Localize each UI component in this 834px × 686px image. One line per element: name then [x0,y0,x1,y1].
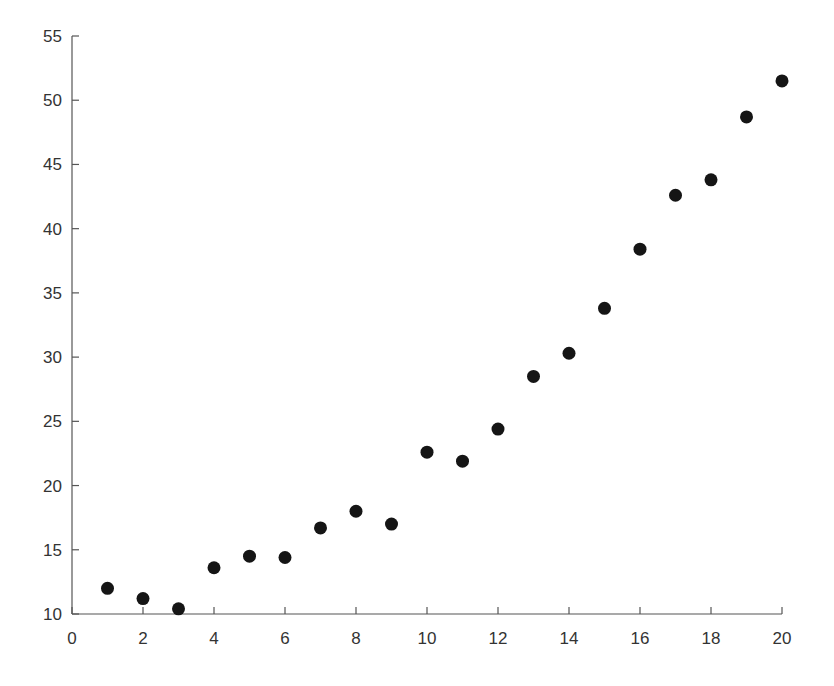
x-tick-label: 18 [702,629,721,648]
x-tick-label: 8 [351,629,360,648]
x-tick-label: 4 [209,629,218,648]
y-axis: 10152025303540455055 [43,27,79,624]
y-tick-label: 50 [43,91,62,110]
data-point [563,347,576,360]
x-tick-label: 2 [138,629,147,648]
data-point [208,561,221,574]
data-point [421,446,434,459]
data-point [279,551,292,564]
data-point [137,592,150,605]
x-tick-label: 20 [773,629,792,648]
y-tick-label: 45 [43,155,62,174]
x-tick-label: 14 [560,629,579,648]
data-point [527,370,540,383]
y-tick-label: 20 [43,477,62,496]
data-point [634,243,647,256]
data-points [101,74,789,615]
x-tick-label: 12 [489,629,508,648]
y-tick-label: 30 [43,348,62,367]
data-point [492,423,505,436]
data-point [172,602,185,615]
data-point [385,518,398,531]
y-tick-label: 55 [43,27,62,46]
y-tick-label: 10 [43,605,62,624]
data-point [456,455,469,468]
y-tick-label: 40 [43,220,62,239]
y-tick-label: 35 [43,284,62,303]
x-tick-label: 6 [280,629,289,648]
x-tick-label: 16 [631,629,650,648]
data-point [776,74,789,87]
y-tick-label: 25 [43,412,62,431]
x-tick-label: 10 [418,629,437,648]
data-point [669,189,682,202]
data-point [740,110,753,123]
x-tick-label: 0 [67,629,76,648]
data-point [314,521,327,534]
data-point [101,582,114,595]
scatter-chart: 10152025303540455055 02468101214161820 [0,0,834,686]
data-point [350,505,363,518]
data-point [598,302,611,315]
y-tick-label: 15 [43,541,62,560]
data-point [243,550,256,563]
data-point [705,173,718,186]
